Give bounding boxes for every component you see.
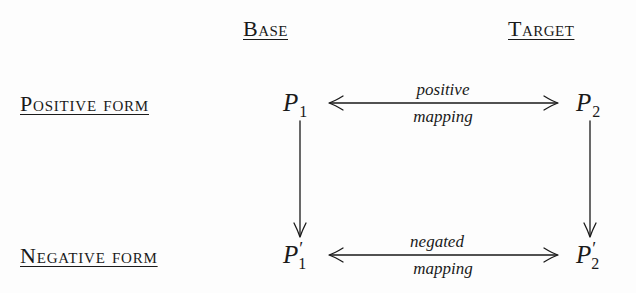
diagram-canvas: Base Target Positive form Negative form … <box>0 0 636 293</box>
base-down-arrow-icon <box>294 121 306 237</box>
target-down-arrow-icon <box>584 121 596 237</box>
diagram-arrows <box>0 0 636 293</box>
positive-mapping-arrow-icon <box>329 96 558 110</box>
negated-mapping-arrow-icon <box>329 248 558 262</box>
